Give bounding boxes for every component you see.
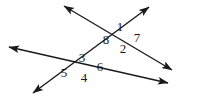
transversal-line (33, 7, 149, 93)
angle-label-8: 8 (99, 33, 113, 47)
angle-label-1: 1 (113, 20, 127, 34)
geometry-lines-canvas (0, 0, 198, 101)
angle-label-7: 7 (130, 31, 144, 45)
geometry-figure: 1 7 8 2 3 6 5 4 (0, 0, 198, 101)
angle-label-2: 2 (116, 42, 130, 56)
angle-label-4: 4 (77, 71, 91, 85)
angle-label-6: 6 (93, 60, 107, 74)
angle-label-3: 3 (75, 51, 89, 65)
angle-label-5: 5 (57, 66, 71, 80)
